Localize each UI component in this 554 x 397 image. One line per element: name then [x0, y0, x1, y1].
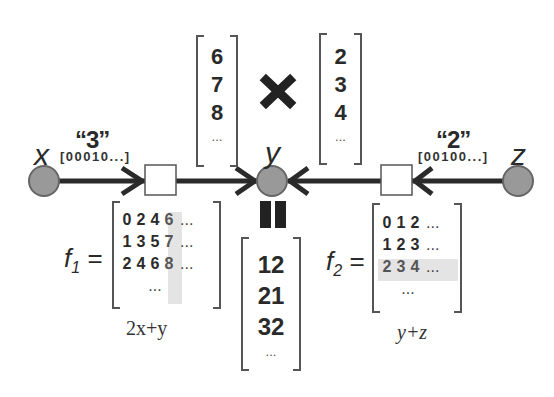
- table-row: 2468...: [120, 253, 219, 275]
- vector-ellipsis: ...: [212, 127, 223, 147]
- message-encoding-right: [00100...]: [418, 150, 489, 163]
- vector-value: 7: [211, 71, 223, 99]
- table-row: 123...: [380, 234, 460, 256]
- vector-value: 8: [211, 99, 223, 127]
- table-ellipsis: ...: [380, 278, 436, 300]
- table-row: 0246...: [120, 209, 219, 231]
- factor-label-f2: f2 =: [326, 248, 365, 279]
- vector-value: 32: [258, 311, 285, 342]
- factor-node-f1[interactable]: [145, 165, 176, 195]
- vector-value: 21: [258, 280, 285, 311]
- factor-label-f1: f1 =: [64, 245, 103, 276]
- variable-label-y: y: [265, 138, 280, 168]
- factor-formula-f1: 2x+y: [126, 318, 167, 338]
- vector-value: 12: [258, 249, 285, 280]
- factor-formula-f2: y+z: [397, 322, 427, 342]
- factor-table-f1: 0246... 1357... 2468... ...: [112, 201, 221, 309]
- vector-f1-message: 6 7 8 ...: [196, 35, 238, 167]
- vector-value: 3: [334, 71, 346, 99]
- variable-label-z: z: [511, 140, 526, 170]
- table-row: 012...: [380, 212, 460, 234]
- factor-table-f2: 012... 123... 234... ...: [372, 203, 462, 313]
- vector-value: 4: [334, 99, 346, 127]
- vector-result: 12 21 32 ...: [241, 237, 301, 371]
- vector-value: 2: [334, 43, 346, 71]
- table-ellipsis: ...: [120, 275, 190, 297]
- table-row: 234...: [380, 256, 460, 278]
- factor-node-f2[interactable]: [381, 165, 412, 195]
- vector-f2-message: 2 3 4 ...: [319, 33, 362, 165]
- vector-ellipsis: ...: [266, 342, 277, 362]
- vector-ellipsis: ...: [335, 127, 346, 147]
- multiply-icon: [266, 80, 290, 103]
- variable-node-y[interactable]: [257, 166, 287, 196]
- variable-label-x: x: [34, 140, 49, 170]
- equals-icon: [260, 201, 286, 228]
- vector-value: 6: [211, 43, 223, 71]
- table-row: 1357...: [120, 231, 219, 253]
- message-encoding-left: [00010...]: [60, 150, 131, 163]
